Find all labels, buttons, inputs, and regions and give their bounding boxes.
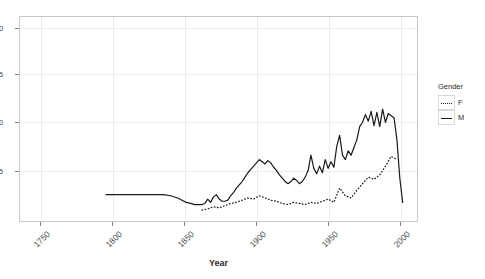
x-tick-mark	[112, 222, 113, 226]
y-tick-label-5: 5	[0, 167, 3, 176]
y-tick-label-10: 0	[0, 118, 3, 127]
legend-item-male[interactable]: M	[438, 110, 485, 125]
y-tick-label-20: 0	[0, 24, 3, 33]
x-tick-mark	[400, 222, 401, 226]
chart-root: 0 5 0 5 1750 1800 1850 1900 1950 2000 Ye…	[0, 0, 485, 279]
legend-item-female[interactable]: F	[438, 95, 485, 110]
x-tick-mark	[256, 222, 257, 226]
legend-label-male: M	[458, 113, 464, 122]
x-tick-mark	[40, 222, 41, 226]
x-axis-title: Year	[0, 258, 437, 268]
x-tick-mark	[328, 222, 329, 226]
legend-key-dotted-icon	[438, 95, 455, 110]
y-tick-label-15: 5	[0, 70, 3, 79]
x-tick-mark	[184, 222, 185, 226]
legend: Gender F M	[438, 82, 485, 125]
legend-key-solid-icon	[438, 110, 455, 125]
legend-label-female: F	[458, 98, 463, 107]
series-line-male	[106, 109, 403, 204]
plot-panel	[19, 16, 418, 222]
series-lines	[20, 17, 417, 221]
legend-title: Gender	[438, 82, 485, 91]
